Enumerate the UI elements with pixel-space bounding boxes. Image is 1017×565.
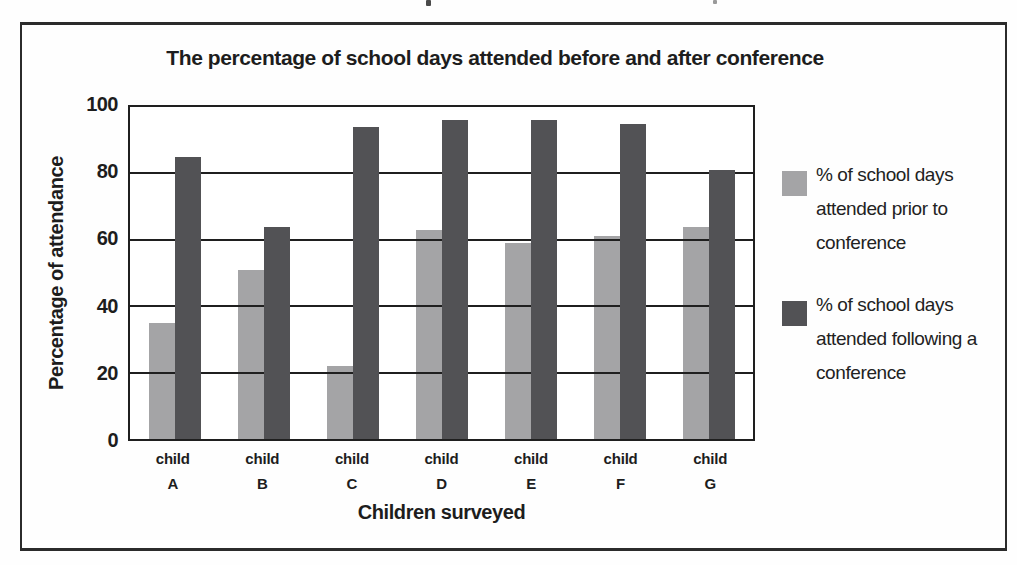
bar-prior-E — [505, 243, 531, 439]
legend-entry-following: % of school days attended following a co… — [782, 288, 994, 390]
bar-group-E — [505, 107, 557, 439]
legend-label: % of school days attended following a co… — [816, 288, 994, 390]
scan-artifact — [426, 0, 431, 6]
scanned-chart-page: The percentage of school days attended b… — [0, 0, 1017, 565]
legend-swatch — [782, 301, 807, 326]
legend-swatch — [782, 171, 807, 196]
plot-area — [128, 105, 755, 441]
x-axis-labels: childAchildBchildCchildDchildEchildFchil… — [128, 450, 755, 492]
bar-prior-F — [594, 236, 620, 439]
bar-prior-A — [149, 323, 175, 439]
y-tick-label-100: 100 — [56, 93, 118, 116]
scan-artifact — [713, 0, 717, 4]
bar-following-G — [709, 170, 735, 439]
x-category-label-E: childE — [499, 450, 563, 492]
bar-following-C — [353, 127, 379, 439]
bar-group-G — [683, 107, 735, 439]
x-axis-title: Children surveyed — [128, 501, 755, 524]
legend-label: % of school days attended prior to confe… — [816, 158, 994, 260]
bar-following-D — [442, 120, 468, 439]
bar-following-E — [531, 120, 557, 439]
x-category-label-F: childF — [589, 450, 653, 492]
x-category-label-A: childA — [141, 450, 205, 492]
y-tick-label-0: 0 — [56, 429, 118, 452]
x-category-label-G: childG — [678, 450, 742, 492]
y-tick-label-80: 80 — [56, 160, 118, 183]
bar-prior-D — [416, 230, 442, 439]
chart-title: The percentage of school days attended b… — [135, 46, 855, 70]
bar-group-C — [327, 107, 379, 439]
y-tick-label-60: 60 — [56, 227, 118, 250]
y-axis-ticks: 020406080100 — [56, 105, 120, 441]
x-category-label-B: childB — [230, 450, 294, 492]
y-tick-label-20: 20 — [56, 362, 118, 385]
x-category-label-D: childD — [409, 450, 473, 492]
x-category-label-C: childC — [320, 450, 384, 492]
bar-group-F — [594, 107, 646, 439]
y-tick-label-40: 40 — [56, 295, 118, 318]
legend-entry-prior: % of school days attended prior to confe… — [782, 158, 994, 260]
bars — [130, 107, 753, 439]
bar-group-D — [416, 107, 468, 439]
bar-group-B — [238, 107, 290, 439]
bar-prior-C — [327, 366, 353, 439]
bar-following-F — [620, 124, 646, 439]
bar-prior-G — [683, 227, 709, 439]
bar-following-B — [264, 227, 290, 439]
bar-prior-B — [238, 270, 264, 439]
bar-group-A — [149, 107, 201, 439]
bar-following-A — [175, 157, 201, 439]
